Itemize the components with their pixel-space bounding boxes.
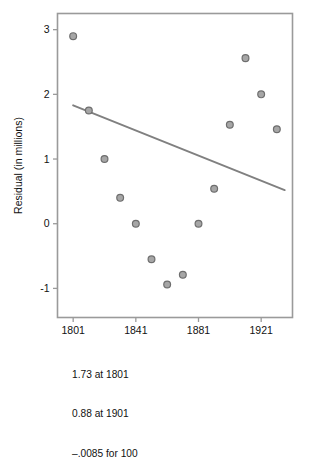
scatter-chart-svg: -101231801184118811921Residual (in milli… [0,0,313,340]
annotation-block: 1.73 at 1801 0.88 at 1901 –.0085 for 100… [72,342,307,459]
x-tick-label: 1881 [187,324,211,336]
y-tick-label: 3 [44,23,50,35]
data-point [101,156,108,163]
plot-background [58,14,293,318]
data-point [164,281,171,288]
y-tick-label: 2 [44,88,50,100]
annotation-line-3: –.0085 for 100 [72,447,307,459]
chart-plot-area: -101231801184118811921Residual (in milli… [0,0,313,340]
y-axis-label: Residual (in millions) [12,117,24,214]
y-tick-label: 1 [44,153,50,165]
x-tick-label: 1921 [249,324,273,336]
data-point [117,194,124,201]
data-point [132,220,139,227]
y-tick-label: 0 [44,217,50,229]
x-tick-label: 1841 [124,324,148,336]
data-point [148,256,155,263]
data-point [258,91,265,98]
data-point [211,185,218,192]
data-point [179,271,186,278]
annotation-line-2: 0.88 at 1901 [72,407,307,420]
annotation-line-1: 1.73 at 1801 [72,368,307,381]
data-point [242,55,249,62]
data-point [70,33,77,40]
x-tick-label: 1801 [61,324,85,336]
data-point [85,107,92,114]
residual-scatter-figure: -101231801184118811921Residual (in milli… [0,0,313,459]
data-point [195,220,202,227]
data-point [226,121,233,128]
y-tick-label: -1 [40,282,49,294]
data-point [273,126,280,133]
